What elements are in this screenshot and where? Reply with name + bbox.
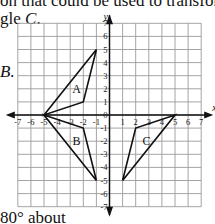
triangle-label-b: B [73, 134, 81, 148]
x-tick-label: 1 [120, 117, 124, 127]
y-tick-label: -2 [100, 136, 107, 146]
triangle-label-c: C [142, 134, 150, 148]
y-tick-label: -7 [100, 202, 107, 212]
x-axis-label: x [211, 102, 215, 113]
x-tick-label: -1 [93, 117, 100, 127]
y-tick-label: 7 [103, 18, 107, 28]
x-tick-label: -6 [27, 117, 34, 127]
y-tick-label: -1 [100, 123, 107, 133]
triangle-label-a: A [72, 82, 81, 96]
y-tick-label: -6 [100, 189, 107, 199]
y-tick-label: 2 [103, 84, 107, 94]
x-tick-label: -7 [14, 117, 21, 127]
y-tick-label: 1 [103, 97, 107, 107]
y-tick-label: 3 [103, 71, 107, 81]
x-tick-label: -2 [80, 117, 87, 127]
x-tick-label: 6 [186, 117, 190, 127]
y-tick-label: 0 [103, 110, 107, 120]
x-tick-label: 7 [199, 117, 203, 127]
y-tick-label: -4 [100, 162, 108, 172]
y-tick-label: 6 [103, 31, 107, 41]
y-tick-label: -5 [100, 176, 107, 186]
coordinate-grid: xy-7-6-5-4-3-2-1123456776543210-1-2-3-4-… [0, 0, 215, 224]
y-tick-label: 5 [103, 45, 107, 55]
x-tick-label: 3 [147, 117, 151, 127]
x-tick-label: 2 [134, 117, 138, 127]
x-tick-label: -3 [67, 117, 74, 127]
y-tick-label: -3 [100, 149, 107, 159]
x-tick-label: 5 [173, 117, 177, 127]
